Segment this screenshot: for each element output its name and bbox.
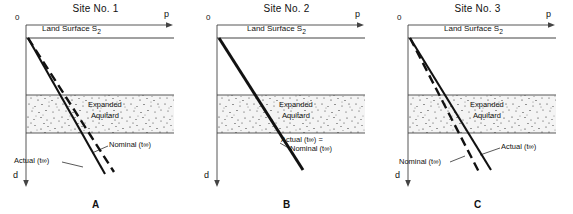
axis-p-label: p (164, 9, 169, 19)
nominal-label: Nominal (t∞) (399, 157, 441, 166)
axis-d-label: d (395, 170, 400, 180)
figure-three-site-comparison: Site No. 1 (0, 0, 573, 214)
aquitard-label: Expanded Aquitard (470, 100, 504, 122)
actual-label: Actual (t∞) (14, 156, 49, 165)
actual-leader (480, 148, 500, 155)
nominal-label: Nominal (t∞) (109, 140, 151, 149)
origin-label-p: 0 (206, 13, 210, 22)
land-surface-label: Land Surface S2 (42, 24, 101, 35)
panel-site-3: Site No. 3 0 p (382, 0, 573, 214)
nominal-leader (450, 156, 465, 162)
axis-p-arrow (548, 22, 555, 28)
panel-title: Site No. 2 (191, 3, 382, 14)
actual-label: Actual (t∞) (501, 142, 536, 151)
axis-d-arrow (214, 180, 220, 187)
axis-p-label: p (546, 9, 551, 19)
aquitard-label: Expanded Aquitard (88, 100, 122, 122)
panel-site-1: Site No. 1 (0, 0, 191, 214)
plot-area-1: 0 p d Land Surface S2 Expanded Aquitard … (26, 22, 174, 190)
axis-p-label: p (355, 9, 360, 19)
origin-label-p: 0 (15, 13, 19, 22)
origin-label-p: 0 (397, 13, 401, 22)
panel-letter: B (191, 199, 382, 210)
plot-area-2: 0 p d Land Surface S2 Expanded Aquitard … (217, 22, 365, 190)
axis-d-label: d (13, 170, 18, 180)
panel-title: Site No. 3 (382, 3, 573, 14)
axis-p-arrow (357, 22, 364, 28)
plot-area-3: 0 p d Land Surface S2 Expanded Aquitard … (408, 22, 556, 190)
panel-title: Site No. 1 (0, 3, 191, 14)
axis-p-arrow (166, 22, 173, 28)
axis-d-arrow (405, 180, 411, 187)
axis-d-label: d (204, 170, 209, 180)
axis-d-arrow (23, 180, 29, 187)
panel-letter: C (382, 199, 573, 210)
nominal-label: Nominal (t∞) (290, 144, 332, 153)
land-surface-label: Land Surface S2 (247, 24, 306, 35)
land-surface-label: Land Surface S2 (444, 24, 503, 35)
panel-letter: A (0, 199, 191, 210)
aquitard-label: Expanded Aquitard (279, 100, 313, 122)
actual-leader (62, 162, 83, 167)
actual-label: Actual (t∞) = (281, 135, 323, 144)
panel-site-2: Site No. 2 0 p d Land Surface S2 (191, 0, 382, 214)
